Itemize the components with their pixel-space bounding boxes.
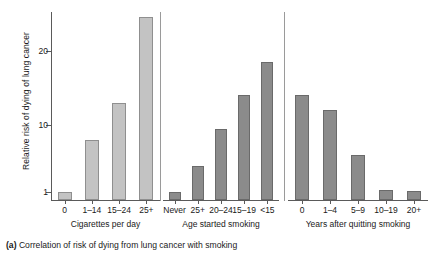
caption-text: Correlation of risk of dying from lung c… [17, 240, 238, 250]
panel-age-started-smoking: Never25+20–2415–19<15Age started smoking [163, 0, 279, 232]
bar [192, 166, 204, 200]
x-tick-mark [146, 200, 147, 204]
bar [139, 17, 153, 200]
chart-plot-area: Relative risk of dying of lung cancer 11… [0, 0, 435, 232]
panel-separator-2 [284, 12, 285, 201]
x-tick-mark [267, 200, 268, 204]
panel-axis-title: Cigarettes per day [51, 219, 160, 229]
bar [379, 190, 394, 200]
x-tick-mark [92, 200, 93, 204]
figure: Relative risk of dying of lung cancer 11… [0, 0, 435, 263]
bar [112, 103, 126, 200]
bar [85, 140, 99, 200]
bar [323, 110, 338, 200]
panel-separator-1 [160, 12, 161, 201]
panel-axis-title: Age started smoking [163, 219, 279, 229]
bar [351, 155, 366, 200]
x-tick-mark [330, 200, 331, 204]
bar [261, 62, 273, 200]
x-tick-mark [65, 200, 66, 204]
x-tick-mark [386, 200, 387, 204]
y-tick-label: 20 [39, 47, 48, 56]
bar [169, 192, 181, 200]
x-tick-mark [414, 200, 415, 204]
panel-axis-title: Years after quitting smoking [288, 219, 428, 229]
x-tick-label: <15 [250, 205, 285, 215]
bar [295, 95, 310, 200]
bar [407, 191, 422, 200]
x-tick-mark [358, 200, 359, 204]
x-tick-mark [175, 200, 176, 204]
x-tick-mark [302, 200, 303, 204]
x-tick-label: 20+ [394, 205, 434, 215]
panel-cigarettes-per-day: 01–1415–2425+Cigarettes per day [51, 0, 160, 232]
bar [215, 129, 227, 200]
x-tick-mark [119, 200, 120, 204]
x-tick-mark [244, 200, 245, 204]
x-tick-mark [221, 200, 222, 204]
y-tick-label: 10 [39, 121, 48, 130]
figure-caption: (a) Correlation of risk of dying from lu… [6, 240, 237, 250]
bar [238, 95, 250, 200]
caption-label: (a) [6, 240, 17, 250]
y-axis-label: Relative risk of dying of lung cancer [21, 11, 31, 191]
y-tick-label: 1 [43, 188, 48, 197]
panel-years-after-quitting: 01–45–910–1920+Years after quitting smok… [288, 0, 428, 232]
x-tick-mark [198, 200, 199, 204]
bar [58, 192, 72, 200]
